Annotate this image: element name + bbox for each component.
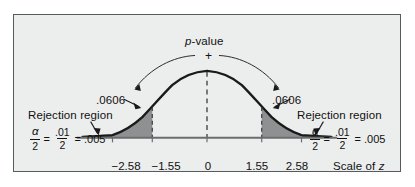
alpha-denominator-right: 2	[310, 139, 320, 152]
rejection-region-label-right: Rejection region	[297, 109, 382, 121]
axis-tick-label-155: 1.55	[246, 160, 268, 172]
axis-tick-label-neg155: −1.55	[151, 160, 180, 172]
alpha-result-right: .005	[364, 133, 385, 145]
equals-sign-right-2: =	[355, 133, 361, 145]
alpha-value-numerator-right: .01	[333, 127, 352, 139]
alpha-symbol-left: α	[30, 126, 41, 139]
p-value-rest: -value	[192, 35, 224, 47]
alpha-expression-left: α 2 = .01 2 = .005	[30, 126, 105, 151]
rejection-region-label-left: Rejection region	[28, 109, 113, 121]
axis-tick-label-258: 2.58	[286, 160, 308, 172]
alpha-fraction-left: α 2	[30, 126, 41, 151]
alpha-value-denominator-left: 2	[57, 138, 67, 151]
alpha-denominator-left: 2	[30, 139, 40, 152]
figure-panel: p-value + .0606 .0606 Rejection region R…	[13, 14, 401, 172]
alpha-value-fraction-right: .01 2	[333, 127, 352, 151]
axis-title: Scale of z	[333, 160, 385, 172]
alpha-expression-right: α 2 = .01 2 = .005	[310, 126, 385, 151]
probability-label-right: .0606	[272, 94, 301, 106]
alpha-value-numerator-left: .01	[53, 127, 72, 139]
axis-title-static: Scale of	[333, 160, 379, 172]
alpha-symbol-right: α	[310, 126, 321, 139]
axis-tick-label-zero: 0	[205, 160, 211, 172]
alpha-value-fraction-left: .01 2	[53, 127, 72, 151]
p-value-title: p-value	[185, 35, 223, 47]
equals-sign-right-1: =	[324, 133, 330, 145]
alpha-fraction-right: α 2	[310, 126, 321, 151]
probability-label-left: .0606	[96, 94, 125, 106]
equals-sign-left-1: =	[44, 133, 50, 145]
axis-tick-label-neg258: −2.58	[111, 160, 140, 172]
axis-title-italic-z: z	[379, 160, 385, 172]
alpha-result-left: .005	[84, 133, 105, 145]
equals-sign-left-2: =	[75, 133, 81, 145]
alpha-value-denominator-right: 2	[337, 138, 347, 151]
p-value-plus-sign: +	[205, 49, 212, 63]
prob-arrowhead-left	[133, 102, 141, 109]
